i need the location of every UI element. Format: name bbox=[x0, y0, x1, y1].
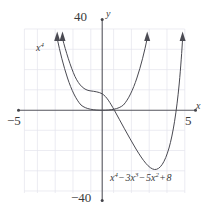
poly-term-2: 3x3 bbox=[126, 172, 139, 183]
curve-quartic-exponent: 4 bbox=[40, 41, 43, 48]
grid-lines bbox=[24, 29, 184, 193]
poly-term-4: 8 bbox=[167, 172, 172, 183]
x-axis-min-label: −5 bbox=[7, 114, 21, 127]
graph-figure: 40 −40 −5 5 y x x4 x4−3x3−5x2+8 bbox=[0, 0, 213, 213]
curve-quartic-label: x4 bbox=[36, 42, 44, 53]
poly-term-3: 5x2 bbox=[146, 172, 159, 183]
y-axis-max-label: 40 bbox=[74, 10, 87, 23]
poly-term-1: x4 bbox=[110, 172, 118, 183]
y-axis-name-label: y bbox=[106, 9, 110, 19]
curve-polynomial-label: x4−3x3−5x2+8 bbox=[110, 172, 172, 183]
poly-op-3: − bbox=[138, 172, 146, 183]
plot-canvas bbox=[0, 0, 213, 213]
poly-op-2: − bbox=[118, 172, 126, 183]
x-axis-name-label: x bbox=[196, 101, 200, 111]
y-axis-min-label: −40 bbox=[71, 191, 91, 204]
x-axis-max-label: 5 bbox=[185, 114, 192, 127]
poly-op-4: + bbox=[159, 172, 167, 183]
